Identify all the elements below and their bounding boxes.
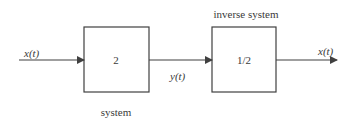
system-caption: system — [101, 106, 132, 118]
inverse-system-caption: inverse system — [213, 8, 278, 20]
inverse-system-gain: 1/2 — [237, 54, 251, 66]
block-diagram — [0, 0, 353, 122]
intermediate-signal-label: y(t) — [170, 70, 185, 82]
output-signal-label: x(t) — [318, 45, 333, 57]
input-signal-label: x(t) — [24, 47, 39, 59]
system-gain: 2 — [113, 54, 119, 66]
